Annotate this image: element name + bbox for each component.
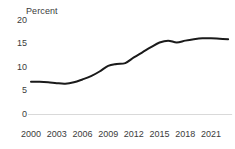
chart-svg [0,0,235,149]
data-series-line [31,38,228,83]
x-axis-tick-2003: 2003 [47,130,67,139]
x-axis-tick-2000: 2000 [21,130,41,139]
x-axis-tick-2009: 2009 [98,130,118,139]
x-axis-tick-2018: 2018 [175,130,195,139]
x-axis-tick-2006: 2006 [72,130,92,139]
plot-area [0,0,235,149]
x-axis-tick-2015: 2015 [150,130,170,139]
line-chart: Percent 20151050 20002003200620092012201… [0,0,235,149]
x-axis-tick-2012: 2012 [124,130,144,139]
x-axis-tick-labels: 20002003200620092012201520182021 [0,130,235,144]
x-axis-tick-2021: 2021 [201,130,221,139]
